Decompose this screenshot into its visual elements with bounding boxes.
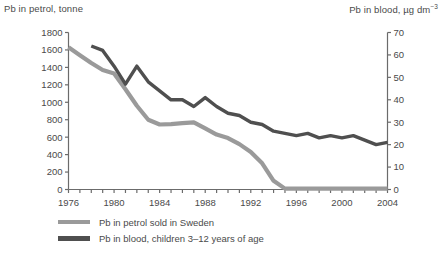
y-axis-tick-label: 1400 (41, 62, 62, 73)
y2-axis-tick-label: 10 (394, 161, 405, 172)
chart-figure: Pb in petrol, tonne Pb in blood, µg dm−3… (0, 0, 441, 259)
legend-item-petrol: Pb in petrol sold in Sweden (58, 214, 264, 230)
y-axis-tick-label: 1000 (41, 97, 62, 108)
y2-axis-tick-label: 40 (394, 94, 405, 105)
y2-axis-tick-label: 0 (394, 184, 399, 195)
legend-swatch-blood (58, 236, 90, 241)
y-axis-tick-label: 200 (47, 166, 63, 177)
right-axis-title-text: Pb in blood, µg dm (349, 4, 430, 15)
y-axis-tick-label: 800 (47, 114, 63, 125)
legend-swatch-petrol (58, 220, 90, 224)
x-axis-tick-label: 1988 (195, 197, 216, 208)
y-axis-tick-label: 1200 (41, 79, 62, 90)
y-axis-tick-label: 1800 (41, 27, 62, 38)
y-axis-tick-label: 0 (57, 184, 62, 195)
left-axis-title: Pb in petrol, tonne (4, 3, 83, 14)
right-axis-title-exponent: −3 (430, 3, 438, 10)
x-axis-tick-label: 2000 (331, 197, 352, 208)
y-axis-tick-label: 1600 (41, 44, 62, 55)
legend-label-blood: Pb in blood, children 3–12 years of age (99, 233, 264, 244)
y2-axis-tick-label: 50 (394, 72, 405, 83)
series-line-blood (91, 46, 387, 145)
y2-axis-tick-label: 20 (394, 139, 405, 150)
y-axis-tick-label: 600 (47, 132, 63, 143)
y-axis-tick-label: 400 (47, 149, 63, 160)
y2-axis-tick-label: 60 (394, 49, 405, 60)
x-axis-tick-label: 1996 (286, 197, 307, 208)
legend-item-blood: Pb in blood, children 3–12 years of age (58, 230, 264, 246)
chart-legend: Pb in petrol sold in Sweden Pb in blood,… (58, 214, 264, 246)
x-axis-tick-label: 1984 (149, 197, 170, 208)
y2-axis-tick-label: 30 (394, 117, 405, 128)
legend-label-petrol: Pb in petrol sold in Sweden (99, 217, 214, 228)
y2-axis-tick-label: 70 (394, 27, 405, 38)
x-axis-tick-label: 1980 (104, 197, 125, 208)
x-axis-tick-label: 1992 (240, 197, 261, 208)
x-axis-tick-label: 2004 (377, 197, 398, 208)
x-axis-tick-label: 1976 (58, 197, 79, 208)
right-axis-title: Pb in blood, µg dm−3 (349, 3, 438, 15)
